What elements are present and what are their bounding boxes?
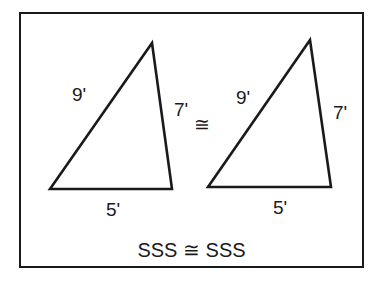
- right-triangle: [208, 40, 331, 187]
- left-triangle: [50, 43, 172, 189]
- right-triangle-side-5: 5': [273, 198, 287, 217]
- congruence-symbol: ≅: [194, 115, 210, 134]
- right-triangle-side-7: 7': [333, 103, 347, 122]
- caption: SSS ≅ SSS: [0, 238, 383, 262]
- left-triangle-side-7: 7': [174, 100, 188, 119]
- left-triangle-side-9: 9': [72, 85, 86, 104]
- left-triangle-side-5: 5': [106, 200, 120, 219]
- right-triangle-side-9: 9': [236, 88, 250, 107]
